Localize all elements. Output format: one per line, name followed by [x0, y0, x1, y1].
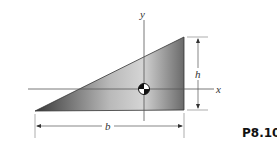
triangle-diagram: x y h b: [0, 0, 277, 151]
height-label: h: [195, 68, 201, 80]
centroid-icon: [139, 84, 150, 95]
base-label: b: [105, 120, 111, 132]
triangle-shape: [35, 37, 184, 111]
problem-number: P8.104: [242, 126, 277, 140]
y-axis-label: y: [139, 8, 145, 20]
x-axis-label: x: [215, 83, 221, 95]
